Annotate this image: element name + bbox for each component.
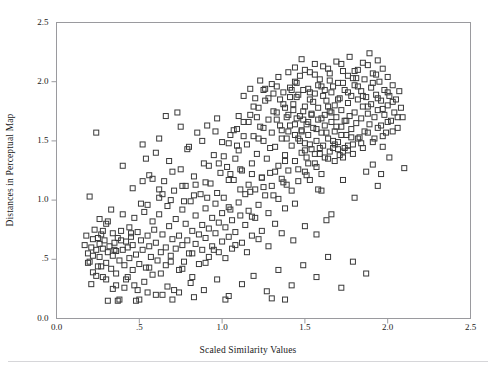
scatter-marker — [163, 263, 168, 268]
scatter-marker — [271, 193, 276, 198]
scatter-marker — [226, 177, 231, 182]
scatter-marker — [317, 151, 322, 156]
scatter-marker — [191, 174, 196, 179]
scatter-marker — [140, 247, 145, 252]
scatter-marker — [173, 246, 178, 251]
scatter-marker — [390, 129, 395, 134]
scatter-marker — [203, 180, 208, 185]
scatter-marker — [312, 161, 317, 166]
scatter-marker — [266, 244, 271, 249]
scatter-marker — [350, 142, 355, 147]
scatter-marker — [244, 250, 249, 255]
scatter-marker — [339, 61, 344, 66]
scatter-marker — [110, 286, 115, 291]
scatter-marker — [117, 258, 122, 263]
scatter-marker — [90, 253, 95, 258]
scatter-marker — [193, 241, 198, 246]
scatter-marker — [249, 172, 254, 177]
scatter-marker — [312, 72, 317, 77]
scatter-marker — [206, 163, 211, 168]
scatter-marker — [239, 240, 244, 245]
scatter-marker — [182, 259, 187, 264]
scatter-marker — [273, 169, 278, 174]
scatter-marker — [223, 225, 228, 230]
scatter-marker — [316, 105, 321, 110]
scatter-marker — [291, 108, 296, 113]
scatter-marker — [216, 250, 221, 255]
scatter-marker — [168, 253, 173, 258]
scatter-marker — [302, 141, 307, 146]
scatter-marker — [162, 179, 167, 184]
scatter-marker — [183, 183, 188, 188]
scatter-marker — [286, 70, 291, 75]
scatter-marker — [129, 231, 134, 236]
scatter-marker — [259, 175, 264, 180]
scatter-marker — [145, 202, 150, 207]
scatter-marker — [92, 227, 97, 232]
scatter-marker — [354, 76, 359, 81]
scatter-marker — [153, 240, 158, 245]
scatter-marker — [289, 188, 294, 193]
scatter-marker — [109, 207, 114, 212]
scatter-marker — [268, 146, 273, 151]
scatter-marker — [276, 163, 281, 168]
scatter-marker — [236, 114, 241, 119]
scatter-marker — [370, 162, 375, 167]
scatter-marker — [188, 280, 193, 285]
scatter-marker — [304, 155, 309, 160]
scatter-marker — [142, 279, 147, 284]
scatter-marker — [319, 130, 324, 135]
scatter-marker — [331, 138, 336, 143]
scatter-marker — [200, 247, 205, 252]
scatter-marker — [200, 138, 205, 143]
scatter-marker — [395, 125, 400, 130]
scatter-marker — [292, 159, 297, 164]
scatter-marker — [340, 149, 345, 154]
scatter-marker — [268, 170, 273, 175]
scatter-marker — [380, 144, 385, 149]
scatter-marker — [238, 187, 243, 192]
scatter-marker — [205, 195, 210, 200]
scatter-marker — [251, 104, 256, 109]
scatter-marker — [254, 115, 259, 120]
scatter-marker — [90, 270, 95, 275]
scatter-marker — [379, 172, 384, 177]
scatter-marker — [143, 156, 148, 161]
scatter-marker — [355, 97, 360, 102]
y-axis-title-wrapper: Distances in Perceptual Map — [0, 22, 20, 318]
scatter-marker — [230, 218, 235, 223]
scatter-marker — [132, 215, 137, 220]
scatter-marker — [89, 245, 94, 250]
scatter-marker — [372, 115, 377, 120]
scatter-marker — [256, 105, 261, 110]
scatter-marker — [213, 231, 218, 236]
scatter-marker — [157, 212, 162, 217]
scatter-marker — [261, 138, 266, 143]
scatter-marker — [157, 195, 162, 200]
scatter-marker — [319, 172, 324, 177]
scatter-marker — [137, 262, 142, 267]
scatter-marker — [339, 285, 344, 290]
scatter-marker — [211, 247, 216, 252]
scatter-marker — [370, 140, 375, 145]
scatter-marker — [269, 296, 274, 301]
scatter-marker — [90, 237, 95, 242]
scatter-marker — [163, 114, 168, 119]
scatter-marker — [283, 105, 288, 110]
scatter-marker — [185, 238, 190, 243]
scatter-marker — [296, 167, 301, 172]
scatter-marker — [114, 271, 119, 276]
scatter-marker — [254, 151, 259, 156]
scatter-marker — [175, 110, 180, 115]
scatter-marker — [105, 250, 110, 255]
scatter-marker — [177, 290, 182, 295]
scatter-marker — [220, 211, 225, 216]
scatter-marker — [263, 193, 268, 198]
scatter-marker — [331, 146, 336, 151]
scatter-marker — [140, 142, 145, 147]
scatter-marker — [345, 101, 350, 106]
scatter-marker — [183, 221, 188, 226]
data-points — [82, 51, 407, 303]
scatter-marker — [283, 206, 288, 211]
scatter-marker — [163, 245, 168, 250]
